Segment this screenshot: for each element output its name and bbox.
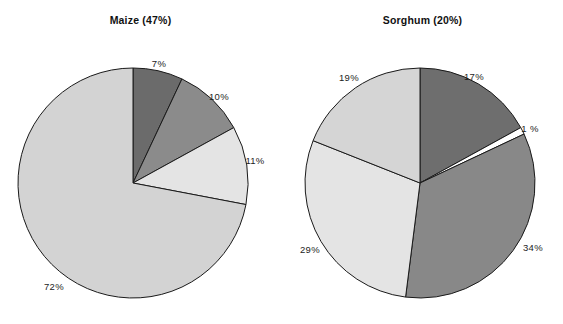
pie-slice-label: 10% [209,91,229,102]
pie-slice-label: 1 % [521,123,538,134]
pie-slice-label: 29% [300,244,320,255]
pie-chart-figure: Maize (47%) 7%10%11%72% Sorghum (20%) 17… [0,0,563,324]
pie-chart-sorghum [282,0,563,324]
chart-panel-maize: Maize (47%) 7%10%11%72% [0,0,281,324]
pie-slice-label: 7% [152,58,166,69]
pie-slice-label: 72% [44,281,64,292]
pie-slice-label: 11% [245,155,264,166]
chart-panel-sorghum: Sorghum (20%) 17%1 %34%29%19% [282,0,563,324]
pie-chart-maize [0,0,281,324]
pie-slice-label: 19% [339,72,359,83]
pie-slice-label: 34% [523,242,543,253]
pie-slice-label: 17% [464,71,484,82]
